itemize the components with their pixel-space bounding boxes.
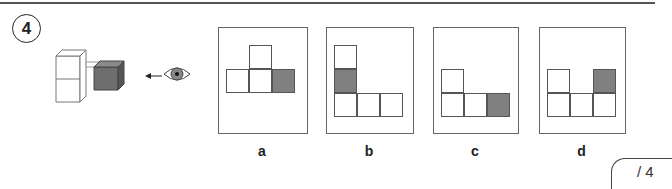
eye-icon — [162, 64, 192, 84]
question-number: 4 — [12, 14, 41, 43]
white-square — [570, 93, 593, 117]
option-d-box[interactable] — [539, 27, 626, 134]
option-b-box[interactable] — [326, 27, 414, 134]
white-square — [441, 93, 464, 117]
cube-figure — [50, 45, 130, 105]
white-square — [249, 45, 272, 69]
option-c-box[interactable] — [433, 27, 519, 134]
option-a-box[interactable] — [218, 27, 308, 134]
white-square — [226, 69, 249, 93]
white-square — [464, 93, 487, 117]
gray-square — [593, 69, 616, 93]
score-text: / 4 — [637, 163, 654, 180]
option-c-label: c — [465, 143, 485, 159]
white-square — [441, 69, 464, 93]
gray-square — [272, 69, 295, 93]
white-square — [357, 93, 380, 117]
white-square — [249, 69, 272, 93]
arrow-left-icon — [145, 72, 163, 80]
white-square — [334, 93, 357, 117]
top-rule — [0, 2, 655, 4]
white-square — [380, 93, 403, 117]
gray-square — [334, 69, 357, 93]
option-a-label: a — [252, 143, 272, 159]
white-square — [547, 93, 570, 117]
white-square — [334, 45, 357, 69]
gray-square — [487, 93, 510, 117]
option-d-label: d — [572, 143, 592, 159]
option-b-label: b — [359, 143, 379, 159]
white-square — [593, 93, 616, 117]
white-square — [547, 69, 570, 93]
